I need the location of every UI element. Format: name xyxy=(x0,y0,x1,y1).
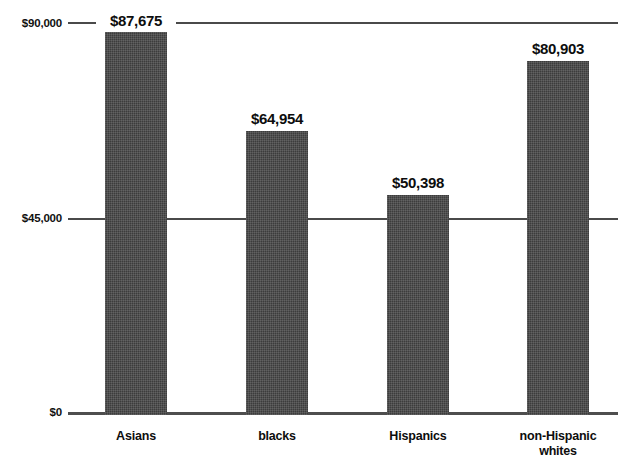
value-label-hispanics: $50,398 xyxy=(378,174,458,191)
x-label-blacks-line1: blacks xyxy=(258,429,296,443)
x-label-hispanics-line1: Hispanics xyxy=(389,429,446,443)
bar-chart: $90,000 $45,000 $0 $87,675 $64,954 $50,3… xyxy=(0,0,621,474)
x-label-non-hispanic-whites-line2: whites xyxy=(498,444,618,459)
value-label-asians: $87,675 xyxy=(96,12,176,29)
y-tick-label-45000: $45,000 xyxy=(0,212,62,224)
value-label-blacks: $64,954 xyxy=(237,110,317,127)
y-tick-label-90000: $90,000 xyxy=(0,17,62,29)
value-label-non-hispanic-whites: $80,903 xyxy=(518,40,598,57)
bar-asians[interactable] xyxy=(105,32,167,415)
bar-hispanics[interactable] xyxy=(387,195,449,415)
x-label-non-hispanic-whites: non-Hispanic whites xyxy=(498,429,618,459)
bar-blacks[interactable] xyxy=(246,131,308,415)
plot-area: $90,000 $45,000 $0 $87,675 $64,954 $50,3… xyxy=(0,0,621,474)
bar-non-hispanic-whites[interactable] xyxy=(527,61,589,415)
x-label-non-hispanic-whites-line1: non-Hispanic xyxy=(520,429,597,443)
gridline-90000-right xyxy=(175,22,618,24)
x-label-hispanics: Hispanics xyxy=(358,429,478,444)
y-tick-label-0: $0 xyxy=(0,406,62,418)
x-label-asians-line1: Asians xyxy=(116,429,156,443)
x-label-blacks: blacks xyxy=(217,429,337,444)
x-label-asians: Asians xyxy=(76,429,196,444)
